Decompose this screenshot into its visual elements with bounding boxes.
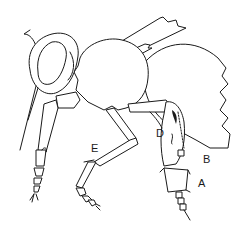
hind-leg [128,100,190,220]
label-b: B [203,154,210,165]
front-leg [30,92,80,202]
label-e: E [91,143,98,154]
label-d: D [156,128,164,139]
thorax [74,39,148,110]
bee-illustration: A B D E [0,0,239,228]
bee-drawing [0,0,239,228]
middle-leg [76,108,138,210]
label-a: A [198,178,205,189]
